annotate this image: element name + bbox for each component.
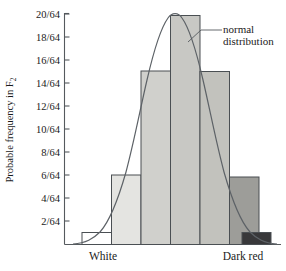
y-tick-label-16: 16/64: [36, 55, 61, 66]
y-tick-label-6: 6/64: [41, 170, 60, 181]
bar-5[interactable]: [200, 72, 230, 245]
annotation-line-1: normal: [223, 23, 254, 35]
y-tick-marks: [65, 14, 70, 221]
y-axis-title-group: Probable frequency in F2: [4, 77, 18, 182]
bar-2[interactable]: [112, 175, 142, 245]
x-label-white: White: [89, 250, 117, 262]
y-tick-labels: 20/64 18/64 16/64 14/64 12/64 10/64 8/64…: [36, 9, 61, 227]
y-tick-label-8: 8/64: [41, 147, 60, 158]
y-tick-label-4: 4/64: [41, 193, 60, 204]
y-tick-label-12: 12/64: [36, 101, 61, 112]
chart-canvas: 20/64 18/64 16/64 14/64 12/64 10/64 8/64…: [0, 0, 286, 271]
y-tick-label-20: 20/64: [36, 9, 61, 20]
y-tick-label-14: 14/64: [36, 78, 61, 89]
y-tick-label-18: 18/64: [36, 32, 61, 43]
histogram-chart: 20/64 18/64 16/64 14/64 12/64 10/64 8/64…: [0, 0, 286, 271]
y-axis-title-text: Probable frequency in F: [4, 81, 15, 182]
annotation-line-2: distribution: [223, 35, 274, 47]
x-label-dark-red: Dark red: [223, 250, 264, 262]
y-axis-title: Probable frequency in F2: [4, 77, 18, 182]
bar-3[interactable]: [141, 71, 171, 245]
y-axis-title-subscript: 2: [9, 77, 18, 81]
annotation-normal-distribution: normal distribution: [223, 23, 274, 47]
bars-group: [82, 16, 271, 245]
y-tick-label-10: 10/64: [36, 124, 61, 135]
x-axis-labels: White Dark red: [89, 250, 264, 262]
y-tick-label-2: 2/64: [41, 216, 60, 227]
